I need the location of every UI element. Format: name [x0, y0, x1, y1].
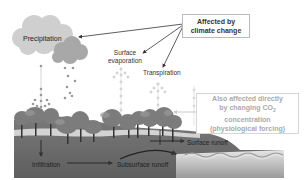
water-cycle-diagram: Precipitation Surface evaporation Transp…: [0, 0, 306, 180]
rain-drops-right: [64, 67, 77, 100]
co2-line2: by changing CO2: [197, 103, 298, 115]
transpiration-label: Transpiration: [143, 69, 181, 77]
infiltration-label: Infiltration: [32, 161, 60, 169]
arrow-to-precipitation: [79, 24, 183, 37]
co2-line2-text: by changing CO: [219, 104, 273, 111]
climate-change-line2: climate change: [183, 26, 249, 35]
diagram-graphics: [0, 0, 306, 180]
co2-physiological-forcing-callout: Also affected directly by changing CO2 c…: [196, 93, 299, 134]
co2-line3: concentration: [197, 115, 298, 124]
water-body: [176, 150, 284, 178]
evaporation-arrow: [113, 68, 129, 113]
co2-faint-line: [193, 86, 195, 126]
surface-evaporation-line1: Surface: [106, 49, 144, 57]
surface-runoff-label: Surface runoff: [187, 139, 228, 147]
co2-subscript: 2: [273, 107, 276, 113]
climate-change-callout: Affected by climate change: [182, 14, 250, 38]
rain-drops-left: [32, 65, 51, 113]
surface-evaporation-line2: evaporation: [106, 57, 144, 65]
subsurface-runoff-label: Subsurface runoff: [117, 161, 168, 169]
surface-evaporation-label: Surface evaporation: [106, 49, 144, 65]
co2-line4: (physiological forcing): [197, 124, 298, 133]
co2-line1: Also affected directly: [197, 94, 298, 103]
precipitation-label: Precipitation: [23, 35, 62, 43]
climate-change-line1: Affected by: [183, 17, 249, 26]
